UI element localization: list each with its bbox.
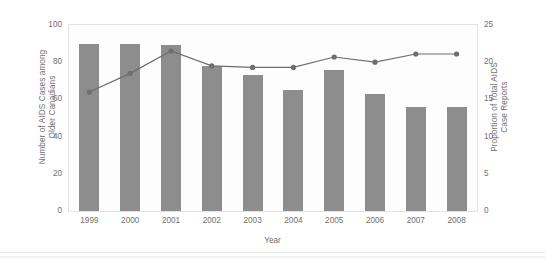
- footer-divider: [0, 252, 545, 253]
- y-tick-left-0: 0: [26, 206, 62, 215]
- line-marker-2002: 2002: 19.5: [209, 63, 214, 68]
- line-marker-2000: 2000: 18.5: [128, 71, 133, 76]
- line-marker-2008: 2008: 21.1: [454, 51, 459, 56]
- x-tick-2002: 2002: [190, 216, 234, 225]
- y-tick-right-0: 0: [484, 206, 520, 215]
- y-tick-left-100: 100: [26, 20, 62, 29]
- y-tick-right-20: 20: [484, 57, 520, 66]
- trend-line: [89, 51, 456, 92]
- line-marker-2004: 2004: 19.3: [291, 65, 296, 70]
- line-marker-2006: 2006: 20: [372, 60, 377, 65]
- y-tick-right-15: 15: [484, 94, 520, 103]
- y-tick-left-20: 20: [26, 169, 62, 178]
- x-tick-2001: 2001: [149, 216, 193, 225]
- x-tick-2006: 2006: [353, 216, 397, 225]
- line-marker-2003: 2003: 19.3: [250, 65, 255, 70]
- x-tick-2007: 2007: [394, 216, 438, 225]
- line-marker-1999: 1999: 16: [87, 89, 92, 94]
- line-marker-2005: 2005: 20.7: [332, 54, 337, 59]
- y-tick-right-5: 5: [484, 169, 520, 178]
- line-marker-2001: 2001: 21.5: [168, 48, 173, 53]
- x-tick-2004: 2004: [271, 216, 315, 225]
- y-tick-right-25: 25: [484, 20, 520, 29]
- y-tick-left-80: 80: [26, 57, 62, 66]
- line-series: 1999: 162000: 18.52001: 21.52002: 19.520…: [69, 25, 477, 211]
- chart-figure: Number of AIDS Cases among Older Canadia…: [0, 0, 545, 258]
- x-tick-1999: 1999: [67, 216, 111, 225]
- x-axis-label: Year: [0, 236, 545, 245]
- x-tick-2008: 2008: [435, 216, 479, 225]
- x-tick-2000: 2000: [108, 216, 152, 225]
- x-tick-2005: 2005: [312, 216, 356, 225]
- y-tick-left-40: 40: [26, 132, 62, 141]
- y-tick-left-60: 60: [26, 94, 62, 103]
- x-tick-2003: 2003: [231, 216, 275, 225]
- line-marker-2007: 2007: 21.1: [413, 51, 418, 56]
- y-tick-right-10: 10: [484, 132, 520, 141]
